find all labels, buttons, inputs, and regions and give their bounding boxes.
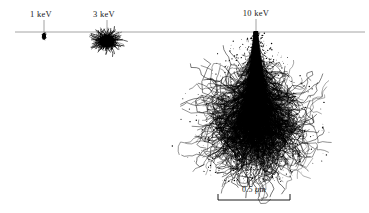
trajectory-artwork: [0, 0, 369, 213]
interaction-volume-3kev: [89, 27, 127, 57]
beam-label-1kev: 1 keV: [30, 9, 52, 19]
beam-label-3kev: 3 keV: [93, 9, 115, 19]
scale-bar-graphic: [218, 194, 290, 200]
beam-label-10kev: 10 keV: [243, 8, 270, 18]
interaction-volume-10kev-outliers: [181, 32, 317, 181]
electron-interaction-volume-figure: 1 keV 3 keV 10 keV 0.5 µm: [0, 0, 369, 213]
scale-bar-label: 0.5 µm: [242, 185, 266, 194]
interaction-volume-1kev: [41, 32, 47, 40]
